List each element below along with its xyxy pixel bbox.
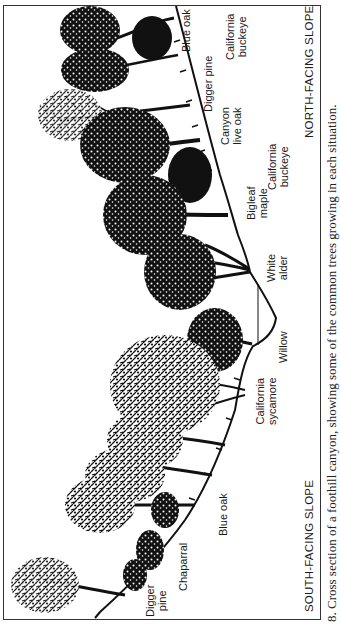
label-canyon-live-oak: Canyon live oak [219, 107, 243, 145]
label-california-buckeye-north-mid: California buckeye [266, 144, 290, 190]
label-digger-pine-south: Digger pine [144, 585, 168, 617]
label-california-sycamore: California sycamore [254, 377, 278, 425]
label-blue-oak-south: Blue oak [217, 493, 229, 536]
tree-white-alder [144, 234, 250, 310]
label-bigleaf-maple: Bigleaf maple [245, 186, 269, 220]
label-chaparral: Chaparral [177, 543, 189, 591]
figure-caption: 8. Cross section of a foothill canyon, s… [324, 105, 340, 622]
label-south-facing-slope: SOUTH-FACING SLOPE [303, 480, 315, 612]
label-blue-oak-north: Blue oak [180, 9, 192, 52]
label-california-buckeye-north-top: California buckeye [224, 14, 248, 60]
label-white-alder: White alder [265, 254, 289, 282]
label-willow: Willow [277, 331, 289, 363]
label-north-facing-slope: NORTH-FACING SLOPE [303, 6, 315, 138]
label-digger-pine-north: Digger pine [202, 56, 214, 112]
